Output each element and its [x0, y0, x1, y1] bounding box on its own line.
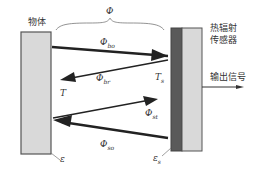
total-flux-label: Φ — [106, 7, 113, 16]
sensor-emissivity-label: εs — [153, 154, 161, 165]
total-flux-brace — [56, 18, 164, 30]
flux-br-arrow — [66, 60, 168, 79]
object-emissivity-label: ε — [60, 155, 65, 164]
object-label: 物体 — [28, 18, 46, 27]
sensor-label-line1: 热辐射 — [210, 24, 237, 33]
output-signal-label: 输出信号 — [210, 73, 246, 82]
flux-bo-label: Φbo — [100, 38, 115, 49]
sensor-temperature-label: Ts — [155, 73, 164, 84]
object-box — [21, 32, 51, 154]
flux-st-arrow — [53, 100, 150, 118]
object-temperature-label: T — [60, 89, 66, 98]
flux-so-label: Φso — [100, 140, 114, 151]
object-emissivity-leader — [51, 153, 60, 160]
sensor-emissivity-leader — [162, 148, 171, 156]
flux-br-label: Φbr — [96, 74, 110, 85]
flux-so-arrow — [62, 122, 168, 138]
flux-st-label: Φst — [145, 109, 158, 120]
sensor-box — [171, 28, 202, 151]
sensor-label-line2: 传感器 — [210, 36, 237, 45]
